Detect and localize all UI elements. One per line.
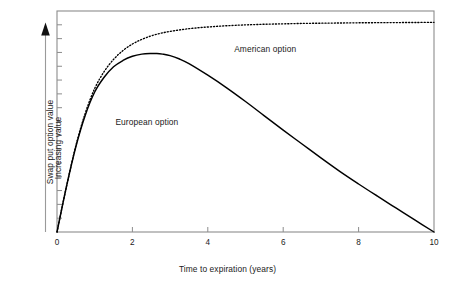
series-annotation: American option [234,44,296,54]
x-tick-label-10: 10 [429,238,438,247]
x-tick-label-6: 6 [281,238,286,247]
chart-figure: Swap put option value Increasing value T… [0,0,455,284]
x-tick-label-0: 0 [55,238,60,247]
x-tick-label-4: 4 [206,238,211,247]
x-tick-label-2: 2 [130,238,135,247]
x-tick-label-8: 8 [356,238,361,247]
x-axis-tick-marks [132,227,358,232]
x-axis-title: Time to expiration (years) [179,264,276,274]
series-annotation: European option [115,117,178,127]
chart-canvas [0,0,455,284]
y-axis-secondary-title: Increasing value [53,117,63,180]
up-arrow-icon [41,23,50,36]
series-line-european-option [57,53,434,232]
